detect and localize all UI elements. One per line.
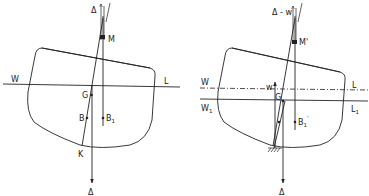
label-g-right: G	[275, 93, 281, 102]
point-g-left	[90, 94, 93, 97]
label-w-force: w	[266, 83, 273, 92]
label-l-left: L	[164, 77, 169, 86]
buoyancy-arrow-up-right-c	[298, 3, 302, 22]
label-delta-top-left: Δ	[91, 6, 97, 15]
left-panel: Δ M W L G B B1 K Δ	[3, 3, 180, 196]
hull-outline-left	[28, 48, 156, 148]
label-g-left: G	[82, 91, 88, 100]
label-w-left: W	[11, 75, 19, 84]
label-k-left: K	[78, 150, 84, 159]
stability-diagram: Δ M W L G B B1 K Δ	[0, 0, 369, 196]
ground-hatch-icon	[268, 148, 282, 152]
label-b-left: B	[79, 114, 85, 123]
buoyancy-arrow-up-left-c	[106, 3, 110, 22]
inclined-centreline	[82, 18, 103, 146]
label-b1-left: B1	[106, 114, 115, 124]
metacentre-marker-right	[292, 40, 297, 44]
point-g-right	[282, 100, 285, 103]
waterline-original-right	[200, 88, 368, 90]
label-b1-prime-right: B1'	[298, 115, 309, 128]
label-l-right: L	[352, 81, 357, 90]
inclined-centreline-right	[273, 18, 295, 146]
metacentre-marker-left	[100, 35, 105, 39]
label-w1-right: W1	[201, 104, 212, 114]
point-b-left	[86, 117, 89, 120]
point-b-right	[278, 121, 281, 124]
right-panel: Δ - w M' W L W1 L1 w G B1' Δ	[200, 3, 368, 196]
label-m-left: M	[108, 35, 115, 44]
label-delta-bottom-left: Δ	[88, 188, 94, 196]
label-w-right: W	[201, 78, 209, 87]
label-delta-bottom-right: Δ	[279, 188, 285, 196]
point-b1-left	[102, 117, 105, 120]
label-delta-minus-w: Δ - w	[272, 8, 292, 17]
label-l1-right: L1	[351, 105, 359, 115]
point-b1-right	[294, 121, 297, 124]
label-m-prime: M'	[299, 38, 308, 47]
